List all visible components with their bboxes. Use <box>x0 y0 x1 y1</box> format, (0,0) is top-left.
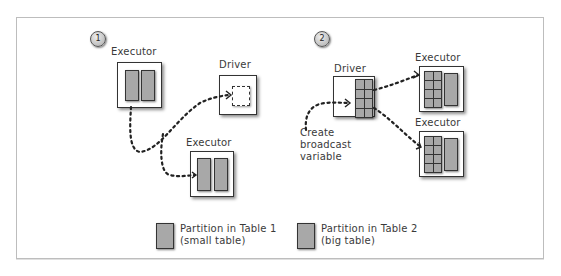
arrow-create-broadcast <box>306 103 350 130</box>
arrow-executor-to-driver <box>130 95 229 152</box>
arrow-broadcast-to-executor-2 <box>374 108 421 147</box>
dotted-arrows <box>0 0 561 276</box>
legend-swatch-table2 <box>297 223 315 249</box>
legend-label-table1: Partition in Table 1 (small table) <box>180 223 277 247</box>
arrow-broadcast-to-executor-1 <box>374 75 418 90</box>
legend-label-table2: Partition in Table 2 (big table) <box>321 223 418 247</box>
legend-swatch-table1 <box>156 223 174 249</box>
arrow-to-bottom-executor <box>161 134 195 176</box>
